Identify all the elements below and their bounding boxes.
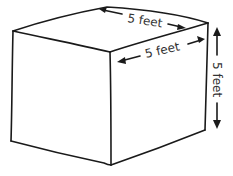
- arrow-line: [103, 10, 122, 14]
- right-vertical-edge: [205, 23, 208, 130]
- cube: [11, 7, 208, 165]
- arrow-up-icon: [213, 27, 221, 36]
- arrow-right-icon: [197, 36, 205, 43]
- bottom-right-edge: [111, 130, 205, 165]
- front-vertical-edge: [110, 52, 111, 165]
- bottom-left-edge: [11, 141, 111, 165]
- arrow-down-icon: [213, 120, 221, 129]
- top-front-left-edge: [13, 31, 110, 52]
- left-vertical-edge: [11, 31, 13, 141]
- height-label: 5 feet: [210, 62, 224, 97]
- height-dimension: 5 feet: [210, 27, 224, 129]
- cube-diagram: 5 feet 5 feet 5 feet: [0, 0, 233, 176]
- arrow-left-icon: [117, 57, 126, 64]
- front-width-dimension: 5 feet: [117, 36, 205, 64]
- top-depth-label: 5 feet: [127, 11, 164, 30]
- front-width-label: 5 feet: [144, 39, 182, 61]
